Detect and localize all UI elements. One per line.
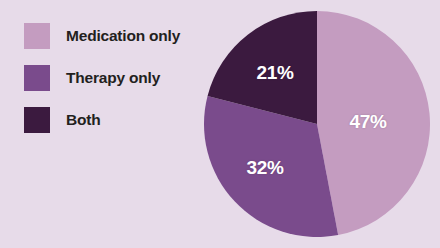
pie-chart-svg — [204, 11, 430, 237]
legend-item-therapy-only[interactable]: Therapy only — [24, 64, 204, 92]
pie-label-medication-only: 47% — [349, 111, 386, 133]
legend-label-medication-only: Medication only — [66, 27, 180, 45]
legend-label-therapy-only: Therapy only — [66, 69, 160, 87]
legend-swatch-both — [24, 107, 50, 133]
pie-chart-figure: Medication only Therapy only Both 47%32%… — [0, 0, 440, 248]
pie-chart: 47%32%21% — [204, 11, 430, 237]
pie-label-therapy-only: 32% — [246, 157, 283, 179]
legend-item-both[interactable]: Both — [24, 106, 204, 134]
legend-swatch-therapy-only — [24, 65, 50, 91]
chart-legend: Medication only Therapy only Both — [24, 22, 204, 148]
pie-label-both: 21% — [256, 62, 293, 84]
legend-item-medication-only[interactable]: Medication only — [24, 22, 204, 50]
legend-swatch-medication-only — [24, 23, 50, 49]
legend-label-both: Both — [66, 111, 101, 129]
